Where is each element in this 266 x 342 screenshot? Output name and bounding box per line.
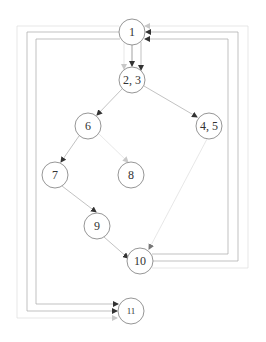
node-label: 10: [134, 254, 146, 268]
node-label: 9: [94, 219, 100, 233]
edge-10-to-1-inner: [145, 39, 228, 254]
edge-6-to-7: [61, 136, 79, 162]
node-2-3[interactable]: 2, 3: [119, 67, 145, 93]
edge-1-to-11-middle: [27, 32, 119, 311]
edges-10-to-1: [145, 26, 248, 268]
node-label: 7: [52, 168, 58, 182]
node-9[interactable]: 9: [84, 213, 110, 239]
edges-1-to-11: [17, 26, 120, 318]
node-label: 8: [128, 168, 134, 182]
edge-7-to-9: [62, 186, 96, 212]
node-11[interactable]: 11: [118, 298, 144, 324]
edge-23-to-45: [144, 86, 197, 117]
node-8[interactable]: 8: [118, 162, 144, 188]
node-1[interactable]: 1: [119, 19, 145, 45]
node-6[interactable]: 6: [75, 113, 101, 139]
edge-10-to-1-outer: [145, 26, 248, 268]
node-label: 2, 3: [123, 73, 141, 87]
node-label: 6: [85, 119, 91, 133]
edge-6-to-8: [99, 134, 128, 162]
node-label: 11: [127, 306, 136, 316]
node-label: 1: [129, 25, 135, 39]
node-7[interactable]: 7: [42, 162, 68, 188]
node-label: 4, 5: [200, 119, 218, 133]
control-flow-graph: 1 2, 3 6 4, 5 7 8 9 10 11: [0, 0, 266, 342]
edge-9-to-10: [104, 237, 128, 258]
node-4-5[interactable]: 4, 5: [196, 113, 222, 139]
edge-10-to-1-middle: [146, 32, 238, 261]
edge-45-to-10: [149, 139, 207, 249]
edge-23-to-6: [97, 89, 122, 115]
node-10[interactable]: 10: [127, 248, 153, 274]
